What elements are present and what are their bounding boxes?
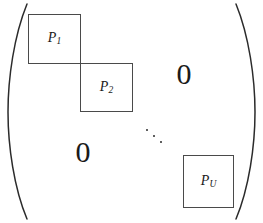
matrix-block-p2: P2 [80, 63, 133, 112]
matrix-block-pu-label: PU [184, 174, 233, 190]
matrix-block-p2-subscript: 2 [109, 85, 114, 95]
diagonal-ellipsis-icon [144, 126, 168, 148]
matrix-block-p1-label: P1 [29, 31, 80, 47]
ellipsis-dot-1 [146, 129, 148, 131]
matrix-block-p1-symbol: P [48, 30, 57, 45]
matrix-block-p1: P1 [28, 14, 81, 64]
matrix-block-p1-subscript: 1 [57, 36, 62, 46]
matrix-figure: P1 P2 PU 0 0 [0, 0, 263, 223]
zero-entry-upper-right: 0 [168, 59, 200, 89]
right-parenthesis [231, 0, 263, 223]
matrix-block-pu-subscript: U [209, 179, 216, 189]
zero-entry-lower-left: 0 [67, 137, 99, 167]
matrix-block-pu: PU [183, 155, 234, 208]
matrix-block-p2-symbol: P [100, 79, 109, 94]
matrix-block-p2-label: P2 [81, 80, 132, 96]
ellipsis-dot-2 [153, 135, 155, 137]
ellipsis-dot-3 [160, 141, 162, 143]
